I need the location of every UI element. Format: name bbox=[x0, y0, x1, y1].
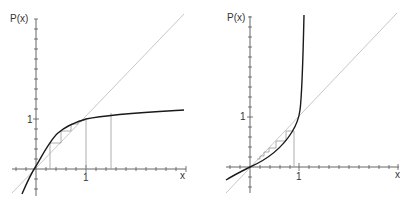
left-y-axis-label: P(x) bbox=[10, 13, 28, 24]
right-y-tick-one: 1 bbox=[240, 111, 246, 122]
left-cobweb bbox=[50, 120, 85, 143]
right-curve bbox=[226, 15, 304, 180]
left-curve bbox=[22, 110, 184, 194]
left-diagonal-line bbox=[12, 14, 184, 193]
figure: P(x) x 1 1 bbox=[0, 0, 409, 206]
right-panel: P(x) x 1 1 bbox=[226, 12, 400, 193]
left-panel: P(x) x 1 1 bbox=[10, 13, 186, 196]
right-x-tick-one: 1 bbox=[296, 171, 302, 182]
left-y-tick-one: 1 bbox=[27, 114, 33, 125]
left-x-axis-label: x bbox=[180, 170, 185, 181]
right-x-axis-label: x bbox=[395, 169, 400, 180]
right-y-axis-label: P(x) bbox=[227, 12, 245, 23]
left-x-tick-one: 1 bbox=[83, 172, 89, 183]
